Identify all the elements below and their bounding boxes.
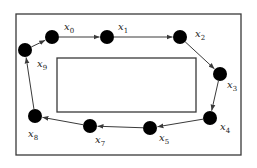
label-group: x0x1x2x3x4x5x7x8x9 bbox=[28, 21, 237, 148]
edge-group bbox=[26, 37, 218, 128]
edge-x8-x9 bbox=[26, 57, 34, 109]
edge-x7-x8 bbox=[42, 117, 83, 124]
edge-x2-x3 bbox=[185, 42, 214, 69]
node-x7 bbox=[83, 119, 97, 133]
node-x1 bbox=[100, 30, 114, 44]
node-label-x3: x3 bbox=[227, 79, 237, 93]
node-label-x1: x1 bbox=[118, 21, 128, 35]
edge-x9-x0 bbox=[31, 40, 45, 47]
node-x5 bbox=[143, 121, 157, 135]
node-x0 bbox=[45, 30, 59, 44]
node-label-x8: x8 bbox=[28, 128, 38, 142]
node-x2 bbox=[173, 30, 187, 44]
contour-diagram: x0x1x2x3x4x5x7x8x9 bbox=[0, 0, 257, 168]
node-label-x4: x4 bbox=[220, 121, 231, 135]
edge-x4-x5 bbox=[157, 119, 203, 127]
node-x3 bbox=[213, 67, 227, 81]
node-label-x0: x0 bbox=[64, 21, 74, 35]
edge-x3-x4 bbox=[212, 81, 219, 111]
edge-x5-x7 bbox=[97, 126, 143, 128]
node-x8 bbox=[28, 109, 42, 123]
node-x4 bbox=[203, 111, 217, 125]
node-label-x5: x5 bbox=[159, 132, 169, 146]
node-label-x2: x2 bbox=[195, 28, 205, 42]
node-label-x7: x7 bbox=[95, 134, 105, 148]
node-x9 bbox=[18, 43, 32, 57]
node-label-x9: x9 bbox=[37, 58, 47, 72]
inner-obstacle-rect bbox=[57, 58, 196, 112]
